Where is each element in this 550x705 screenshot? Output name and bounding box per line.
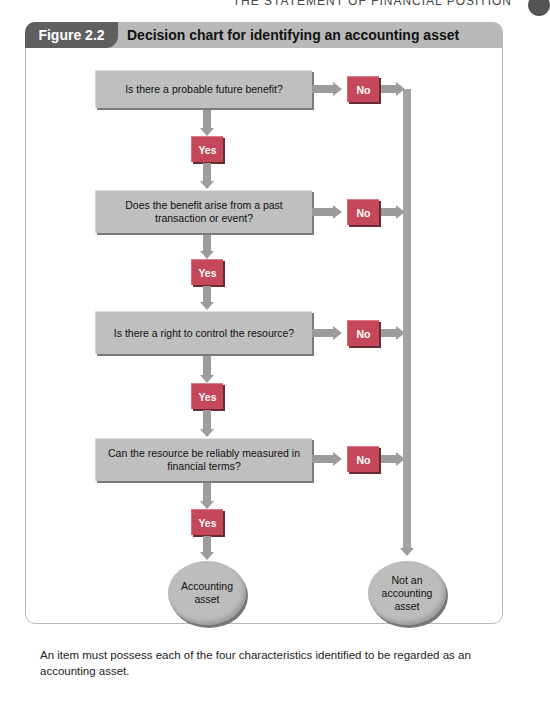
arrow-down-icon: [200, 110, 214, 136]
figure-label: Figure 2.2: [25, 22, 118, 48]
question-text: Does the benefit arise from a past trans…: [104, 199, 304, 225]
question-box-2: Does the benefit arise from a past trans…: [95, 190, 312, 233]
no-label: No: [347, 446, 379, 472]
yes-label: Yes: [191, 509, 223, 535]
question-box-3: Is there a right to control the resource…: [95, 311, 312, 354]
arrow-down-icon: [400, 548, 414, 560]
arrow-down-icon: [200, 235, 214, 259]
running-head: THE STATEMENT OF FINANCIAL POSITION: [233, 0, 512, 8]
no-label: No: [347, 320, 379, 346]
arrow-right-icon: [381, 326, 405, 340]
figure-caption: An item must possess each of the four ch…: [40, 647, 490, 679]
question-text: Is there a right to control the resource…: [114, 327, 294, 340]
arrow-right-icon: [381, 82, 405, 96]
arrow-down-icon: [200, 356, 214, 383]
outcome-not-accounting-asset: Not an accounting asset: [368, 561, 446, 625]
question-box-4: Can the resource be reliably measured in…: [95, 438, 312, 481]
arrow-right-icon: [312, 452, 342, 466]
arrow-down-icon: [200, 410, 214, 437]
question-box-1: Is there a probable future benefit?: [95, 70, 312, 108]
yes-label: Yes: [191, 383, 223, 409]
yes-label: Yes: [191, 136, 223, 162]
arrow-right-icon: [312, 326, 342, 340]
question-text: Is there a probable future benefit?: [125, 83, 283, 96]
arrow-down-icon: [200, 286, 214, 310]
arrow-down-icon: [200, 163, 214, 189]
outcome-accounting-asset: Accounting asset: [168, 561, 246, 625]
no-path-connector: [403, 89, 411, 550]
arrow-right-icon: [381, 205, 405, 219]
arrow-down-icon: [200, 536, 214, 560]
no-label: No: [347, 76, 379, 102]
figure-title: Decision chart for identifying an accoun…: [127, 22, 459, 48]
outcome-text: Not an accounting asset: [378, 574, 436, 613]
no-label: No: [347, 199, 379, 225]
arrow-right-icon: [312, 205, 342, 219]
page-corner-tab: [528, 0, 550, 16]
outcome-text: Accounting asset: [179, 580, 235, 606]
yes-label: Yes: [191, 259, 223, 285]
arrow-right-icon: [312, 82, 342, 96]
arrow-right-icon: [381, 452, 405, 466]
arrow-down-icon: [200, 483, 214, 509]
question-text: Can the resource be reliably measured in…: [104, 447, 304, 473]
